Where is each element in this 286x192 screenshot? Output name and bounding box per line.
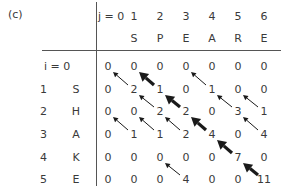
traceback-arrow-icon <box>191 72 206 85</box>
traceback-arrow-thick-icon <box>243 163 258 175</box>
traceback-arrow-icon <box>217 95 232 107</box>
traceback-arrow-icon <box>243 117 258 130</box>
traceback-arrow-icon <box>113 117 128 130</box>
traceback-arrow-icon <box>165 117 180 130</box>
traceback-arrow-icon <box>113 72 128 85</box>
traceback-arrows <box>0 0 286 192</box>
traceback-arrow-thick-icon <box>139 72 154 85</box>
traceback-arrow-icon <box>165 163 180 175</box>
traceback-arrow-icon <box>139 95 154 107</box>
traceback-arrow-thick-icon <box>217 140 232 153</box>
traceback-arrow-icon <box>139 117 154 130</box>
traceback-arrow-icon <box>243 95 258 107</box>
traceback-arrow-thick-icon <box>165 95 180 107</box>
traceback-arrow-thick-icon <box>191 117 206 130</box>
